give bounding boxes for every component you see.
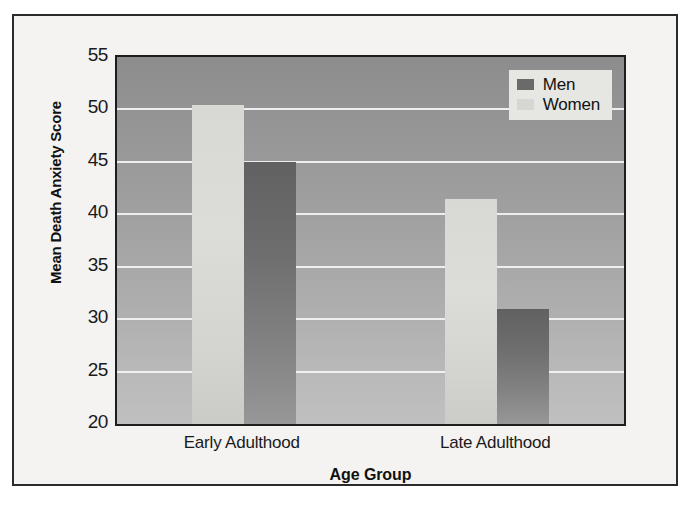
y-tick-label: 30 <box>52 307 108 326</box>
x-tick-label: Early Adulthood <box>115 433 369 453</box>
legend-item-women: Women <box>517 96 600 113</box>
y-tick-label: 35 <box>52 255 108 274</box>
bar-men-late-adulthood <box>497 309 549 424</box>
x-axis-tick-labels: Early AdulthoodLate Adulthood <box>115 433 626 459</box>
bar-women-early-adulthood <box>192 105 244 424</box>
legend-label-women: Women <box>543 96 600 113</box>
legend-swatch-women-icon <box>517 99 534 110</box>
y-tick-label: 50 <box>52 97 108 116</box>
y-tick-label: 25 <box>52 360 108 379</box>
x-tick-label: Late Adulthood <box>369 433 623 453</box>
y-axis-tick-labels: 5550454035302520 <box>52 55 108 422</box>
y-tick-label: 55 <box>52 45 108 64</box>
plot-area: Men Women <box>115 55 626 426</box>
figure-frame: Mean Death Anxiety Score 555045403530252… <box>12 14 678 486</box>
legend: Men Women <box>509 70 612 120</box>
bar-men-early-adulthood <box>244 162 296 424</box>
y-tick-label: 45 <box>52 150 108 169</box>
bar-women-late-adulthood <box>445 199 497 424</box>
legend-item-men: Men <box>517 76 600 93</box>
legend-swatch-men-icon <box>517 79 534 90</box>
y-tick-label: 40 <box>52 202 108 221</box>
legend-label-men: Men <box>543 76 575 93</box>
x-axis-title: Age Group <box>115 466 626 484</box>
y-tick-label: 20 <box>52 412 108 431</box>
